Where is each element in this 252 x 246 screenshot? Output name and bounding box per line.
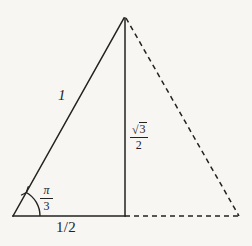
interior-angle-arc bbox=[26, 193, 40, 217]
base-length-label: 1/2 bbox=[56, 220, 76, 235]
interior-angle-label: π 3 bbox=[40, 184, 53, 212]
angle-numerator: π bbox=[42, 184, 50, 196]
altitude-length-label: √3 2 bbox=[130, 122, 148, 151]
radicand-value: 3 bbox=[139, 122, 147, 135]
edge-hypotenuse bbox=[13, 18, 124, 216]
radical-sign: √ bbox=[132, 124, 139, 136]
hypotenuse-length-label: 1 bbox=[58, 88, 66, 103]
altitude-denominator: 2 bbox=[135, 139, 143, 151]
square-root-icon: √3 bbox=[131, 122, 147, 135]
triangle-drawing bbox=[0, 0, 252, 246]
edge-mirror-hypotenuse bbox=[126, 18, 239, 216]
angle-denominator: 3 bbox=[43, 200, 51, 212]
altitude-numerator: √3 bbox=[130, 122, 148, 135]
geometry-figure: 1 1/2 √3 2 π 3 bbox=[0, 0, 252, 246]
